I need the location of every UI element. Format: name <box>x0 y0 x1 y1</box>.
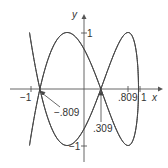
graph: y x −1 .809 1 1 −1 −.809 .309 <box>0 0 168 168</box>
y-tick-label-1: 1 <box>87 28 93 39</box>
y-tick-label-neg1: −1 <box>69 141 81 152</box>
y-axis-arrow-icon <box>82 14 87 19</box>
x-axis-label: x <box>151 92 158 103</box>
x-tick-label-1: 1 <box>141 92 147 103</box>
annotation-0309: .309 <box>93 123 113 134</box>
x-axis-arrow-icon <box>158 87 163 92</box>
x-tick-label-0809: .809 <box>118 92 138 103</box>
y-axis-label: y <box>71 9 78 20</box>
annotation-neg-0809: −.809 <box>54 107 80 118</box>
ticks <box>31 33 140 146</box>
y-axis <box>82 14 87 162</box>
x-tick-label-neg1: −1 <box>20 92 32 103</box>
